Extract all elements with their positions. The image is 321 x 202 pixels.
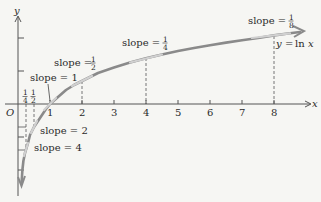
ln-x-diagram: y x O 1 2 3 4 5 6 7 8 1 4 1 2: [0, 0, 321, 202]
slope-label-4: slope = 1 4: [122, 35, 168, 53]
svg-text:slope =: slope =: [122, 37, 160, 48]
x-tick-5: 5: [175, 107, 181, 118]
x-axis-label: x: [312, 98, 318, 109]
x-tick-6: 6: [207, 107, 213, 118]
x-tick-4: 4: [143, 107, 149, 118]
svg-text:8: 8: [289, 21, 294, 30]
x-tick-2: 2: [79, 107, 85, 118]
x-tick-7: 7: [239, 107, 245, 118]
slope-label-quarter: slope = 4: [34, 142, 82, 153]
svg-text:2: 2: [91, 63, 96, 72]
svg-text:4: 4: [23, 96, 28, 105]
origin-label: O: [6, 107, 14, 118]
slope-label-half: slope = 2: [40, 125, 88, 136]
svg-text:4: 4: [163, 43, 168, 52]
svg-text:slope =: slope =: [54, 57, 92, 68]
svg-text:=: =: [285, 38, 293, 49]
x-tick-3: 3: [111, 107, 117, 118]
slope-label-8: slope = 1 8: [248, 13, 294, 31]
svg-text:ln: ln: [295, 38, 305, 49]
y-axis-label: y: [13, 5, 20, 16]
function-label: y = ln x: [275, 38, 314, 49]
svg-text:2: 2: [31, 96, 36, 105]
svg-text:x: x: [308, 38, 314, 49]
svg-text:slope =: slope =: [248, 15, 286, 26]
slope-label-1: slope = 1: [30, 72, 78, 83]
slope-1-pointer: [48, 84, 50, 101]
fraction-tick-labels: 1 4 1 2: [23, 88, 37, 105]
x-tick-8: 8: [271, 107, 277, 118]
svg-text:y: y: [275, 38, 282, 49]
x-tick-1: 1: [47, 107, 53, 118]
tangent-segments: [24, 33, 290, 156]
slope-label-2: slope = 1 2: [54, 55, 96, 73]
